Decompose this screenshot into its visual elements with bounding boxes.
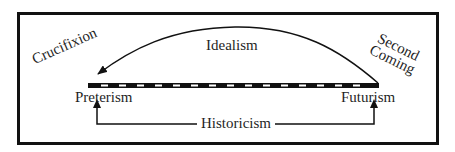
idealism-label: Idealism [206, 38, 258, 53]
timeline-dashes [101, 85, 360, 87]
futurism-label: Futurism [341, 90, 395, 105]
timeline-bar [88, 83, 379, 88]
preterism-label: Preterism [75, 90, 133, 105]
idealism-arc-arrow [98, 27, 378, 83]
historicism-label: Historicism [197, 116, 275, 131]
